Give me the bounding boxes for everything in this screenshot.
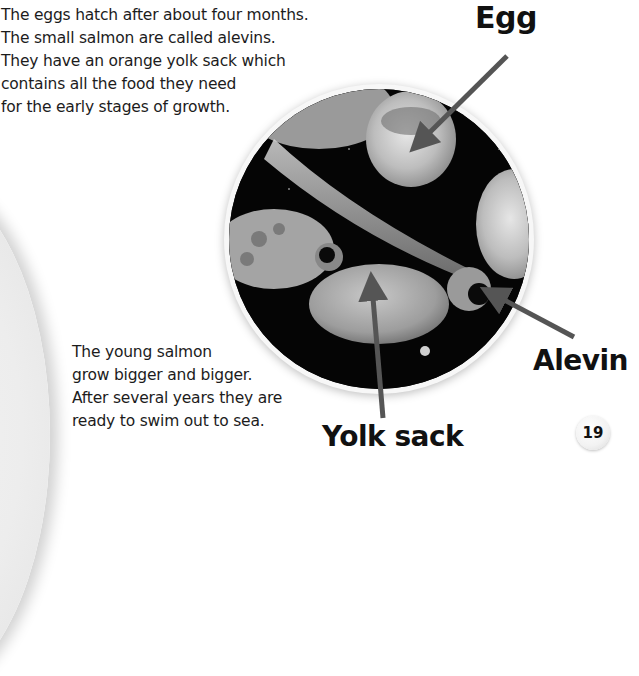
yolk-sack-pointer-arrow xyxy=(372,286,383,418)
egg-pointer-arrow xyxy=(420,56,507,142)
egg-label: Egg xyxy=(475,0,537,35)
alevin-pointer-arrow xyxy=(493,294,574,337)
alevin-label: Alevin xyxy=(533,344,628,377)
yolk-sack-label: Yolk sack xyxy=(322,420,463,453)
page-number-badge: 19 xyxy=(576,416,610,450)
